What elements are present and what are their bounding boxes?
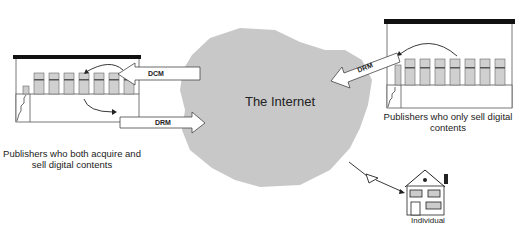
individual-label: Individual — [403, 216, 453, 225]
publishers-right-label: Publishers who only sell digital content… — [378, 111, 518, 133]
network-triangle-icon — [366, 174, 378, 183]
publisher-right-building — [384, 19, 515, 108]
publishers-left-label: Publishers who both acquire and sell dig… — [2, 148, 142, 170]
dcm-label: DCM — [148, 70, 164, 77]
house-icon — [405, 170, 448, 215]
publisher-left-building — [13, 55, 141, 122]
internet-label: The Internet — [225, 94, 335, 109]
drm-out-label: DRM — [155, 119, 171, 126]
server-rack-row — [34, 73, 134, 94]
